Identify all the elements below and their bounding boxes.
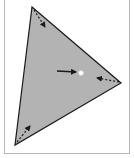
target-point — [79, 71, 84, 76]
triangle-diagram — [0, 0, 134, 158]
triangle — [15, 7, 121, 145]
